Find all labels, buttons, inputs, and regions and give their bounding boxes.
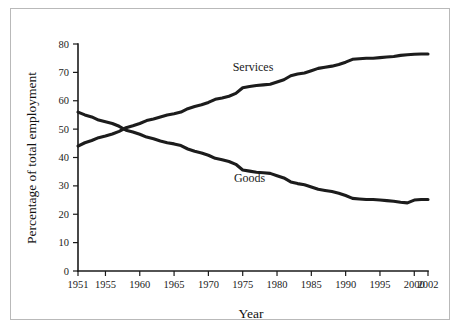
x-tick-label: 1955 xyxy=(95,279,116,290)
x-tick-label: 1995 xyxy=(369,279,390,290)
y-tick-label: 20 xyxy=(59,209,70,220)
series-label-goods: Goods xyxy=(234,171,266,185)
x-tick-label: 1951 xyxy=(68,279,89,290)
series-label-services: Services xyxy=(233,60,274,74)
chart-page: 01020304050607080 1951195519601965197019… xyxy=(0,0,462,331)
y-tick-label: 50 xyxy=(59,124,70,135)
y-tick-label: 0 xyxy=(64,266,69,277)
y-tick-label: 30 xyxy=(59,180,70,191)
x-tick-label: 1970 xyxy=(198,279,219,290)
y-tick-label: 40 xyxy=(59,152,70,163)
x-tick-label: 1975 xyxy=(232,279,253,290)
line-chart: 01020304050607080 1951195519601965197019… xyxy=(0,0,462,331)
y-axis-title: Percentage of total employment xyxy=(24,72,39,244)
x-tick-label: 1960 xyxy=(129,279,150,290)
x-tick-label: 1980 xyxy=(267,279,288,290)
x-tick-label: 1985 xyxy=(301,279,322,290)
x-tick-label: 2002 xyxy=(418,279,439,290)
y-tick-label: 10 xyxy=(59,237,70,248)
x-axis-ticks: 1951195519601965197019751980198519901995… xyxy=(68,271,439,290)
y-tick-label: 80 xyxy=(59,39,70,50)
x-tick-label: 1965 xyxy=(164,279,185,290)
y-tick-label: 70 xyxy=(59,67,70,78)
x-tick-label: 1990 xyxy=(335,279,356,290)
x-axis-title: Year xyxy=(239,306,264,321)
y-axis-ticks: 01020304050607080 xyxy=(59,39,79,277)
y-tick-label: 60 xyxy=(59,95,70,106)
